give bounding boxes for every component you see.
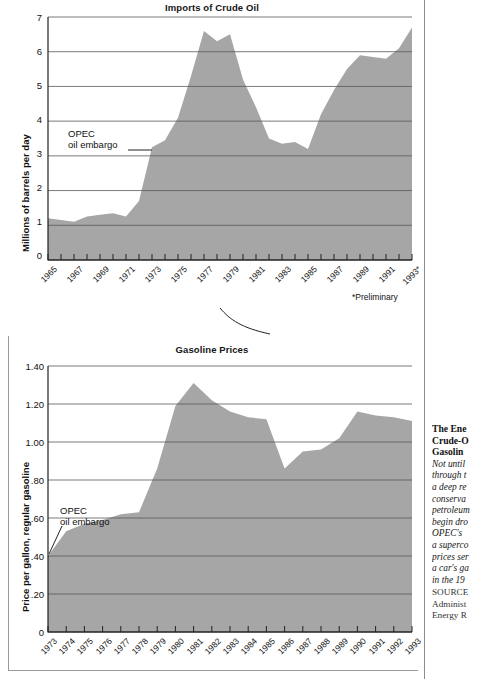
caption-body: Not untilthrough ta deep reconservapetro… [432,459,496,587]
caption-source-line-2: Energy R [432,610,496,621]
chart-gasoline-prices: Gasoline Prices Price per gallon, regula… [0,330,424,675]
caption-body-line-9: a car's ga [432,563,496,575]
chart1-annotation-opec: OPEC [68,128,118,139]
chart2-ytick-140: 1.40 [14,361,44,372]
caption-body-line-8: prices ser [432,552,496,564]
chart2-annotation-leader-line [48,526,64,556]
caption-heading-line-1: Crude-O [432,435,496,447]
chart1-ytick-5: 5 [26,80,42,91]
caption-heading: The Ene Crude-O Gasolin [432,423,496,458]
chart1-footnote: *Preliminary [352,292,398,302]
chart1-ytick-0: 0 [26,250,42,261]
chart1-ytick-7: 7 [26,12,42,23]
chart1-ytick-3: 3 [26,148,42,159]
caption-body-line-6: OPEC's [432,528,496,540]
chart2-annotation-embargo: oil embargo [60,516,110,527]
chart2-annotation-opec: OPEC [60,505,110,516]
chart2-title: Gasoline Prices [0,344,424,355]
chart2-ytick-100: 1.00 [14,437,44,448]
caption-body-line-5: begin dro [432,517,496,529]
caption-source-line-1: Administ [432,599,496,610]
caption-source: SOURCEAdministEnergy R [432,587,496,621]
chart1-ytick-2: 2 [26,182,42,193]
chart1-annotation-leader-line [128,147,154,153]
side-caption: The Ene Crude-O Gasolin Not untilthrough… [432,423,496,622]
caption-body-line-0: Not until [432,459,496,471]
chart1-title: Imports of Crude Oil [0,2,424,13]
chart1-ytick-1: 1 [26,216,42,227]
chart2-annotation: OPEC oil embargo [60,505,110,527]
chart2-ytick-020: .20 [14,589,44,600]
caption-body-line-3: conserva [432,494,496,506]
chart1-annotation-embargo: oil embargo [68,139,118,150]
caption-heading-line-2: Gasolin [432,446,496,458]
caption-body-line-10: in the 19 [432,575,496,587]
chart1-annotation: OPEC oil embargo OPEC oil embargo [68,128,118,150]
chart2-ytick-080: .80 [14,475,44,486]
figure-page: Imports of Crude Oil Millions of barrels… [0,0,496,679]
chart2-plot-area [48,366,412,632]
chart-imports-of-crude-oil: Imports of Crude Oil Millions of barrels… [0,0,424,330]
caption-source-line-0: SOURCE [432,587,496,598]
column-divider-rule [424,0,425,679]
chart2-ytick-040: .40 [14,551,44,562]
caption-body-line-2: a deep re [432,482,496,494]
chart1-ytick-4: 4 [26,114,42,125]
chart2-ytick-120: 1.20 [14,399,44,410]
caption-body-line-1: through t [432,470,496,482]
chart2-ytick-0: 0 [14,627,44,638]
chart1-ytick-6: 6 [26,46,42,57]
chart2-ytick-060: .60 [14,513,44,524]
caption-body-line-7: a superco [432,540,496,552]
caption-heading-line-0: The Ene [432,423,496,435]
caption-body-line-4: petroleum [432,505,496,517]
